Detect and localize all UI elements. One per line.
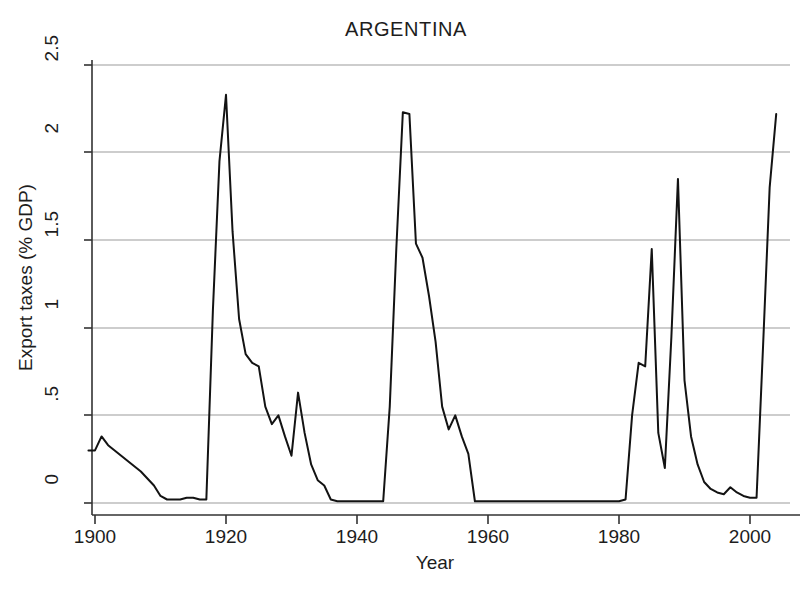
gridlines	[92, 65, 790, 503]
plot-area	[0, 0, 812, 595]
axes	[84, 60, 800, 524]
chart-figure: ARGENTINA Export taxes (% GDP) Year 2.5 …	[0, 0, 812, 595]
data-series-export-taxes	[88, 95, 776, 501]
